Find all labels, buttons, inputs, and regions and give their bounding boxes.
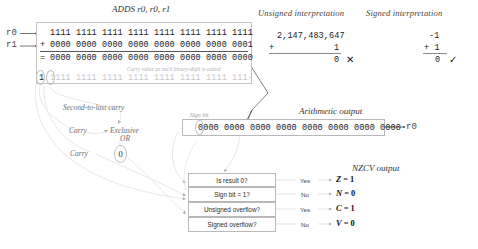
exclusive-or-label-line2: OR <box>120 134 130 143</box>
flag-number: 1 <box>351 204 355 213</box>
flag-question-label: Is result 0? <box>216 177 247 184</box>
leading-carry-ellipse <box>36 70 45 85</box>
flag-question-box[interactable]: Unsigned overflow? <box>188 202 276 217</box>
second-to-last-carry-ellipse <box>46 70 55 85</box>
signed-rule <box>423 53 447 54</box>
flag-question-label: Signed overflow? <box>207 221 256 228</box>
signed-interpretation-header: Signed interpretation <box>366 8 442 18</box>
signed-result: 0 <box>435 55 440 65</box>
addition-rule <box>40 51 248 52</box>
nzcv-output-header: NZCV output <box>352 163 400 173</box>
flag-question-box[interactable]: Is result 0? <box>188 173 276 187</box>
unsigned-rule <box>269 53 341 54</box>
unsigned-operand2: 1 <box>334 43 339 53</box>
sum-bits: 0000 0000 0000 0000 0000 0000 0000 0000 <box>50 53 253 63</box>
flag-answer-label: Yes <box>300 206 310 213</box>
carry-label-lower: Carry <box>70 149 88 158</box>
flag-number: 1 <box>350 175 354 184</box>
unsigned-operand1: 2,147,483,647 <box>277 31 345 41</box>
flag-question-label: Sign bit = 1? <box>214 191 250 198</box>
addition-plus-sign: + <box>40 40 45 50</box>
check-icon: ✓ <box>449 55 457 65</box>
operand1-register-label: r0 <box>6 28 17 38</box>
signed-operand1: -1 <box>429 31 439 41</box>
unsigned-result: 0 <box>334 55 339 65</box>
arithmetic-output-header: Arithmetic output <box>299 106 362 116</box>
sign-bit-label: Sign bit <box>190 112 209 118</box>
flag-equals: = <box>342 189 351 198</box>
second-to-last-carry-label: Second-to-last carry <box>63 103 124 112</box>
flag-equals: = <box>342 219 351 228</box>
diagram-canvas: ADDS r0, r0, r1 Unsigned interpretation … <box>0 0 478 249</box>
signed-operand2: + 1 <box>424 43 440 53</box>
sign-bit-ellipse <box>195 120 204 135</box>
carry-label-upper: Carry <box>69 126 87 135</box>
flag-value-v: V = 0 <box>336 219 355 228</box>
cross-icon: ✕ <box>346 55 354 65</box>
flag-answer-label: No <box>301 221 309 228</box>
flag-answer-label: Yes <box>300 177 310 184</box>
flag-value-c: C = 1 <box>336 204 355 213</box>
flag-question-box[interactable]: Signed overflow? <box>188 217 276 232</box>
xor-result-value: 0 <box>114 149 127 159</box>
operand2-bits: 0000 0000 0000 0000 0000 0000 0000 0001 <box>50 40 253 50</box>
unsigned-plus-sign: + <box>269 43 274 53</box>
flag-value-n: N = 0 <box>336 189 355 198</box>
sum-equals-sign: = <box>40 53 45 63</box>
instruction-title: ADDS r0, r0, r1 <box>112 4 170 14</box>
operand2-register-label: r1 <box>6 40 17 50</box>
flag-value-z: Z = 1 <box>336 175 354 184</box>
flag-equals: = <box>342 204 351 213</box>
flag-equals: = <box>341 175 350 184</box>
flag-number: 0 <box>351 189 355 198</box>
flag-question-box[interactable]: Sign bit = 1? <box>188 187 276 202</box>
arithmetic-output-bits: 0000 0000 0000 0000 0000 0000 0000 0000 <box>198 123 401 133</box>
carry-caption: Carry value as each binary-digit is adde… <box>127 66 221 72</box>
operand1-bits: 1111 1111 1111 1111 1111 1111 1111 1111 <box>50 28 253 38</box>
carry-bits-row: 1111 1111 1111 1111 1111 1111 1111 111- <box>50 73 253 83</box>
flag-number: 0 <box>351 219 355 228</box>
unsigned-interpretation-header: Unsigned interpretation <box>258 8 344 18</box>
flag-answer-label: No <box>301 191 309 198</box>
result-register-label: r0 <box>406 122 417 132</box>
flag-question-label: Unsigned overflow? <box>204 206 260 213</box>
